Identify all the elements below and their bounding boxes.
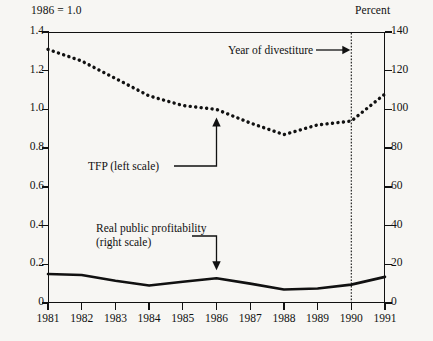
x-tick-label: 1985	[171, 312, 194, 324]
left-tick-label: 0	[38, 295, 44, 307]
left-tick-label: 1.2	[30, 63, 44, 75]
right-tick-label: 140	[391, 24, 408, 36]
x-tick-mark	[351, 303, 352, 310]
x-tick-label: 1988	[272, 312, 295, 324]
series-layer	[0, 0, 433, 341]
x-tick-mark	[182, 303, 183, 310]
x-tick-label: 1984	[138, 312, 161, 324]
x-tick-mark	[216, 303, 217, 310]
x-tick-label: 1987	[239, 312, 262, 324]
left-tick-label: 0.2	[30, 256, 44, 268]
x-tick-label: 1983	[104, 312, 127, 324]
tfp-arrow	[174, 117, 221, 166]
annotation-divestiture: Year of divestiture	[228, 44, 313, 58]
x-tick-mark	[115, 303, 116, 310]
right-tick-label: 60	[391, 179, 403, 191]
left-tick-label: 0.8	[30, 140, 44, 152]
x-tick-label: 1990	[340, 312, 363, 324]
left-tick-label: 1.4	[30, 24, 44, 36]
x-tick-label: 1982	[70, 312, 93, 324]
series-profitability-line	[48, 274, 385, 289]
x-tick-mark	[283, 303, 284, 310]
x-tick-mark	[81, 303, 82, 310]
x-tick-mark	[384, 303, 385, 310]
divestiture-arrow	[316, 46, 350, 54]
right-tick-label: 0	[391, 295, 397, 307]
right-tick-label: 80	[391, 140, 403, 152]
right-tick-label: 100	[391, 101, 408, 113]
x-tick-mark	[148, 303, 149, 310]
x-tick-label: 1981	[37, 312, 60, 324]
right-tick-label: 20	[391, 256, 403, 268]
x-tick-label: 1991	[374, 312, 397, 324]
annotation-profitability-line2: (right scale)	[96, 236, 151, 248]
right-tick-label: 120	[391, 63, 408, 75]
right-tick-label: 40	[391, 218, 403, 230]
x-tick-mark	[250, 303, 251, 310]
left-tick-label: 0.4	[30, 218, 44, 230]
chart-figure: 1986 = 1.0 Percent Year of divestiture T…	[0, 0, 433, 341]
annotation-tfp: TFP (left scale)	[88, 160, 159, 174]
left-tick-label: 0.6	[30, 179, 44, 191]
x-tick-label: 1986	[205, 312, 228, 324]
x-tick-mark	[317, 303, 318, 310]
annotation-profitability-line1: Real public profitability	[96, 222, 207, 234]
x-tick-mark	[47, 303, 48, 310]
x-tick-label: 1989	[306, 312, 329, 324]
annotation-profitability: Real public profitability (right scale)	[96, 222, 207, 249]
left-tick-label: 1.0	[30, 101, 44, 113]
